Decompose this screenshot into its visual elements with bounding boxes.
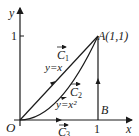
svg-text:3: 3 xyxy=(66,130,70,136)
y-tick-label: 1 xyxy=(11,29,17,43)
y-axis-label: y xyxy=(8,6,15,20)
origin-label: O xyxy=(6,120,16,135)
svg-text:2: 2 xyxy=(78,91,82,100)
point-a-label: A(1,1) xyxy=(97,29,128,43)
point-b-label: B xyxy=(101,103,109,117)
c3-label: C 3 xyxy=(58,125,70,136)
diagram-canvas: y x O 1 1 A(1,1) B C 1 y=x C 2 y=x² C 3 xyxy=(0,0,139,136)
x-tick-label: 1 xyxy=(94,122,100,136)
c2-equation: y=x² xyxy=(55,98,77,110)
svg-text:1: 1 xyxy=(65,54,69,63)
x-axis-label: x xyxy=(125,122,132,136)
path-c3-up-arrow-icon xyxy=(96,78,101,84)
path-c3-arrow-icon xyxy=(56,118,62,123)
c1-equation: y=x xyxy=(44,61,62,73)
